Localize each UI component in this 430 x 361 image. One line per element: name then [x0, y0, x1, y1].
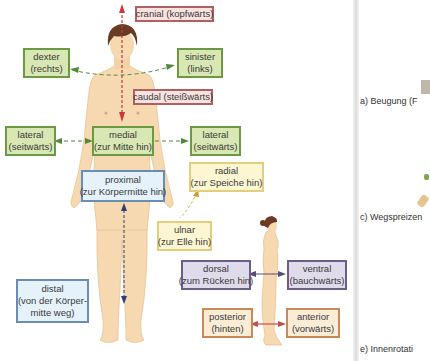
meaning-proximal: (zur Körpermitte hin): [80, 186, 167, 198]
label-lateral-right: lateral (seitwärts): [190, 126, 241, 156]
label-dorsal: dorsal (zum Rücken hin): [181, 260, 251, 290]
label-ulnar: ulnar (zur Elle hin): [157, 221, 212, 251]
figure-c-leaf: [424, 174, 429, 180]
figure-a-thumbnail: [421, 80, 430, 94]
label-dexter: dexter (rechts): [23, 48, 70, 78]
meaning-ulnar: (zur Elle hin): [158, 236, 211, 248]
meaning-sinister: (links): [187, 63, 212, 75]
right-page: a) Beugung (F c) Wegspreizen e) Innenrot…: [359, 0, 430, 361]
term-ventral: ventral: [303, 263, 332, 275]
label-lateral-left: lateral (seitwärts): [5, 126, 56, 156]
term-ulnar: ulnar: [174, 224, 195, 236]
meaning-dorsal: (zum Rücken hin): [179, 275, 253, 287]
meaning-posterior: (hinten): [211, 323, 243, 335]
term-distal: distal: [41, 283, 63, 295]
figure-c-thumbnail: [416, 194, 429, 208]
term-caudal: caudal (steißwärts): [133, 91, 213, 103]
label-sinister: sinister (links): [177, 48, 223, 78]
label-anterior: anterior (vorwärts): [286, 308, 340, 338]
meaning-distal-line2: (von der Körper-: [18, 295, 87, 307]
term-cranial: cranial (kopfwärts): [136, 8, 214, 20]
meaning-lateral-left: (seitwärts): [9, 141, 53, 153]
term-dorsal: dorsal: [203, 263, 229, 275]
term-posterior: posterior: [209, 311, 246, 323]
label-medial: medial (zur Mitte hin): [92, 126, 154, 156]
caption-a: a) Beugung (F: [360, 96, 418, 106]
term-lateral-left: lateral: [18, 129, 44, 141]
caption-c: c) Wegspreizen: [360, 212, 422, 222]
meaning-distal-line3: mitte weg): [31, 307, 75, 319]
label-caudal: caudal (steißwärts): [133, 89, 213, 105]
term-dexter: dexter: [33, 51, 59, 63]
term-radial: radial: [215, 165, 238, 177]
label-ventral: ventral (bauchwärts): [287, 260, 347, 290]
caption-e: e) Innenrotati: [360, 344, 413, 354]
meaning-lateral-right: (seitwärts): [194, 141, 238, 153]
label-posterior: posterior (hinten): [202, 308, 253, 338]
label-proximal: proximal (zur Körpermitte hin): [81, 170, 165, 202]
label-radial: radial (zur Speiche hin): [189, 162, 264, 192]
term-medial: medial: [109, 129, 137, 141]
label-distal: distal (von der Körper- mitte weg): [16, 279, 89, 323]
term-proximal: proximal: [105, 174, 141, 186]
meaning-medial: (zur Mitte hin): [94, 141, 152, 153]
label-cranial: cranial (kopfwärts): [135, 6, 214, 22]
term-sinister: sinister: [185, 51, 215, 63]
meaning-dexter: (rechts): [30, 63, 62, 75]
left-page: cranial (kopfwärts) dexter (rechts) sini…: [0, 0, 355, 361]
meaning-radial: (zur Speiche hin): [191, 177, 263, 189]
meaning-ventral: (bauchwärts): [290, 275, 345, 287]
meaning-anterior: (vorwärts): [292, 323, 334, 335]
term-anterior: anterior: [297, 311, 329, 323]
term-lateral-right: lateral: [203, 129, 229, 141]
